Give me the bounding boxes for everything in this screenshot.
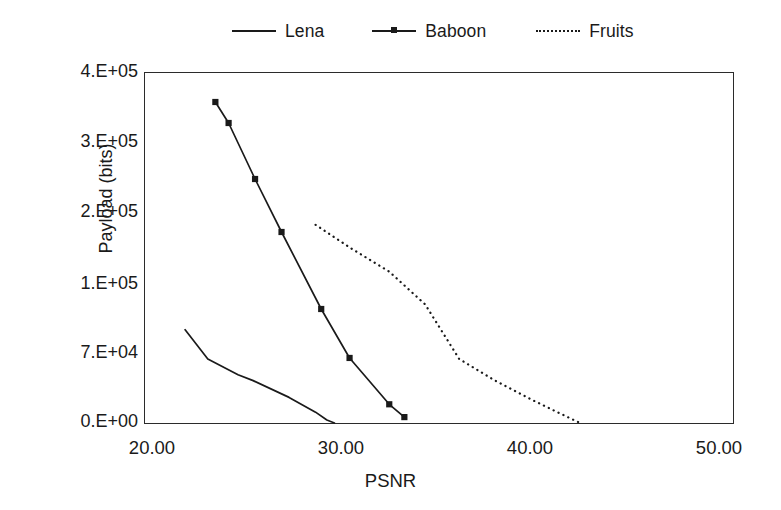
x-tick-label: 20.00 [97, 437, 207, 459]
x-tick-label: 30.00 [286, 437, 396, 459]
x-tick-label: 40.00 [475, 437, 585, 459]
x-axis-title: PSNR [0, 470, 781, 492]
chart-figure: Lena Baboon Fruits Payload (bits) 4.E+05… [0, 0, 781, 510]
x-tick-label: 50.00 [664, 437, 774, 459]
x-axis-tick-labels: 20.0030.0040.0050.00 [0, 0, 781, 510]
